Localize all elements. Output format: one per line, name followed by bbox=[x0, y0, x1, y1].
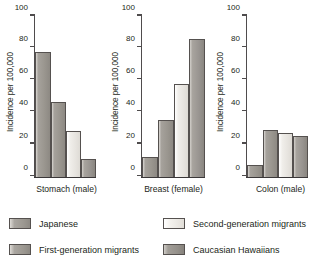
y-tick-label-60: 60 bbox=[231, 66, 240, 75]
chart-legend: Japanese First-generation migrants Secon… bbox=[0, 214, 315, 272]
y-tick-label-0: 0 bbox=[24, 162, 28, 171]
y-tick-label-40: 40 bbox=[126, 98, 135, 107]
bar-colon-second-generation-migrants[interactable] bbox=[278, 133, 293, 177]
legend-label: Caucasian Hawaiians bbox=[193, 245, 280, 255]
chart-panel-stomach-male: Incidence per 100,000 100 80 60 40 20 0 bbox=[0, 6, 105, 206]
legend-swatch-icon bbox=[163, 218, 185, 229]
bar-group bbox=[35, 15, 96, 177]
legend-swatch-icon bbox=[9, 218, 31, 229]
bar-breast-second-generation-migrants[interactable] bbox=[174, 84, 190, 176]
x-axis-category-label: Stomach (male) bbox=[0, 184, 119, 194]
y-axis-title-text: Incidence per 100,000 bbox=[5, 52, 15, 132]
y-tick-label-20: 20 bbox=[231, 130, 240, 139]
y-tick-label-100: 100 bbox=[15, 2, 28, 11]
y-tick-100 bbox=[137, 14, 142, 15]
y-tick-60 bbox=[242, 78, 247, 79]
incidence-bar-chart-figure: Incidence per 100,000 100 80 60 40 20 0 bbox=[0, 0, 315, 275]
legend-item-caucasian-hawaiians[interactable]: Caucasian Hawaiians bbox=[163, 244, 280, 255]
bar-colon-caucasian-hawaiians[interactable] bbox=[293, 136, 308, 177]
bar-colon-japanese[interactable] bbox=[247, 165, 262, 176]
y-tick-label-100: 100 bbox=[122, 2, 135, 11]
y-tick-0 bbox=[137, 175, 142, 176]
x-axis-line bbox=[34, 177, 96, 178]
y-tick-label-80: 80 bbox=[19, 34, 28, 43]
y-axis-title: Incidence per 100,000 bbox=[213, 6, 227, 178]
bar-group bbox=[142, 15, 205, 177]
y-tick-label-80: 80 bbox=[126, 34, 135, 43]
plot-area: 100 80 60 40 20 0 bbox=[34, 14, 96, 178]
chart-panel-breast-female: Incidence per 100,000 100 80 60 40 20 0 bbox=[105, 6, 210, 206]
legend-swatch-icon bbox=[9, 244, 31, 255]
y-tick-label-0: 0 bbox=[131, 162, 135, 171]
y-tick-20 bbox=[137, 142, 142, 143]
y-tick-60 bbox=[137, 78, 142, 79]
y-tick-20 bbox=[242, 142, 247, 143]
plot-area: 100 80 60 40 20 0 bbox=[246, 14, 308, 178]
y-axis-title: Incidence per 100,000 bbox=[108, 6, 122, 178]
bar-stomach-first-generation-migrants[interactable] bbox=[51, 102, 66, 177]
y-tick-100 bbox=[242, 14, 247, 15]
y-tick-label-0: 0 bbox=[236, 162, 240, 171]
bar-breast-japanese[interactable] bbox=[142, 157, 158, 176]
legend-label: First-generation migrants bbox=[39, 245, 139, 255]
legend-item-japanese[interactable]: Japanese bbox=[9, 218, 78, 229]
y-tick-0 bbox=[242, 175, 247, 176]
y-tick-100 bbox=[30, 14, 35, 15]
bar-breast-first-generation-migrants[interactable] bbox=[158, 120, 174, 177]
bar-stomach-japanese[interactable] bbox=[35, 52, 50, 177]
y-axis-title-text: Incidence per 100,000 bbox=[215, 52, 225, 132]
x-axis-line bbox=[141, 177, 205, 178]
y-tick-20 bbox=[30, 142, 35, 143]
legend-label: Japanese bbox=[39, 219, 78, 229]
y-tick-40 bbox=[30, 110, 35, 111]
legend-item-second-generation-migrants[interactable]: Second-generation migrants bbox=[163, 218, 306, 229]
legend-swatch-icon bbox=[163, 244, 185, 255]
chart-panels: Incidence per 100,000 100 80 60 40 20 0 bbox=[0, 6, 315, 206]
y-tick-80 bbox=[242, 46, 247, 47]
y-tick-label-60: 60 bbox=[19, 66, 28, 75]
y-tick-40 bbox=[242, 110, 247, 111]
y-axis-title-text: Incidence per 100,000 bbox=[110, 52, 120, 132]
bar-colon-first-generation-migrants[interactable] bbox=[263, 130, 278, 177]
y-tick-0 bbox=[30, 175, 35, 176]
bar-stomach-caucasian-hawaiians[interactable] bbox=[81, 159, 96, 177]
y-tick-label-20: 20 bbox=[126, 130, 135, 139]
y-tick-label-100: 100 bbox=[227, 2, 240, 11]
legend-label: Second-generation migrants bbox=[193, 219, 306, 229]
bar-stomach-second-generation-migrants[interactable] bbox=[66, 131, 81, 176]
x-axis-category-label: Colon (male) bbox=[210, 184, 315, 194]
x-axis-line bbox=[246, 177, 308, 178]
y-tick-label-80: 80 bbox=[231, 34, 240, 43]
bar-breast-caucasian-hawaiians[interactable] bbox=[189, 39, 205, 177]
chart-panel-colon-male: Incidence per 100,000 100 80 60 40 20 0 bbox=[210, 6, 315, 206]
y-tick-60 bbox=[30, 78, 35, 79]
y-tick-40 bbox=[137, 110, 142, 111]
y-tick-80 bbox=[30, 46, 35, 47]
y-tick-80 bbox=[137, 46, 142, 47]
legend-item-first-generation-migrants[interactable]: First-generation migrants bbox=[9, 244, 139, 255]
plot-area: 100 80 60 40 20 0 bbox=[141, 14, 205, 178]
y-tick-label-40: 40 bbox=[231, 98, 240, 107]
bar-group bbox=[247, 15, 308, 177]
y-axis-title: Incidence per 100,000 bbox=[3, 6, 17, 178]
y-tick-label-40: 40 bbox=[19, 98, 28, 107]
y-tick-label-20: 20 bbox=[19, 130, 28, 139]
x-axis-category-label: Breast (female) bbox=[105, 184, 226, 194]
y-tick-label-60: 60 bbox=[126, 66, 135, 75]
